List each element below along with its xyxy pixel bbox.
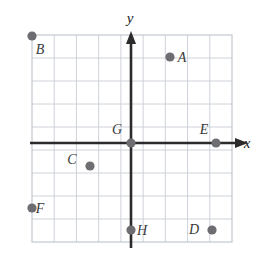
point-label-e: E [199, 122, 209, 137]
coordinate-plane-figure: ABCDEFGH xy [0, 0, 264, 262]
point-label-b: B [36, 42, 45, 57]
plotted-point-h[interactable] [126, 225, 135, 234]
x-axis-label: x [243, 135, 251, 151]
plotted-point-b[interactable] [27, 31, 36, 40]
plotted-point-a[interactable] [165, 52, 174, 61]
point-label-a: A [177, 50, 187, 65]
y-axis-arrowhead [126, 31, 136, 44]
point-labels-group: ABCDEFGH [35, 42, 209, 238]
point-label-f: F [35, 201, 45, 216]
points-group [27, 31, 220, 234]
plotted-point-g[interactable] [126, 138, 135, 147]
plotted-point-e[interactable] [211, 138, 220, 147]
point-label-h: H [136, 223, 148, 238]
plotted-point-c[interactable] [85, 161, 94, 170]
point-label-g: G [112, 122, 122, 137]
y-axis-label: y [125, 10, 134, 26]
plotted-point-d[interactable] [207, 225, 216, 234]
point-label-d: D [188, 222, 199, 237]
point-label-c: C [67, 152, 77, 167]
plot-canvas: ABCDEFGH xy [0, 0, 264, 262]
